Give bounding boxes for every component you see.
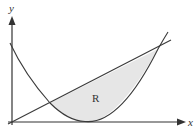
region-label: R <box>92 92 100 104</box>
y-axis-arrow-icon <box>9 16 16 25</box>
region-r-fill <box>50 49 158 122</box>
x-axis-label: x <box>187 116 193 128</box>
y-axis-label: y <box>8 2 14 14</box>
region-diagram: y x R <box>0 0 196 129</box>
x-axis-arrow-icon <box>177 119 186 126</box>
